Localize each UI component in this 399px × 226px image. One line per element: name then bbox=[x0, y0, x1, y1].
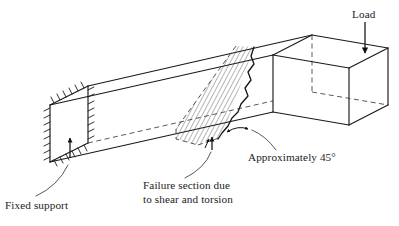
angle-label: Approximately 45° bbox=[248, 151, 336, 163]
figure-root: Load Fixed support Failure section due t… bbox=[0, 0, 399, 226]
double-headed-arrow-icon bbox=[227, 128, 248, 132]
angle-leader-line bbox=[252, 130, 276, 150]
angle-annotation: Approximately 45° bbox=[248, 130, 336, 163]
failure-section-annotation: Failure section due to shear and torsion bbox=[143, 137, 233, 205]
failure-section-label-line1: Failure section due bbox=[143, 179, 230, 191]
fixed-support-leader-line bbox=[36, 165, 68, 196]
fixed-support-label: Fixed support bbox=[5, 199, 69, 211]
beam-diagram-canvas: Load Fixed support Failure section due t… bbox=[0, 0, 399, 226]
failure-section-label-line2: to shear and torsion bbox=[143, 193, 233, 205]
load-end-block bbox=[273, 35, 388, 125]
load-label: Load bbox=[352, 8, 376, 20]
failure-section-leader-line bbox=[185, 152, 211, 178]
